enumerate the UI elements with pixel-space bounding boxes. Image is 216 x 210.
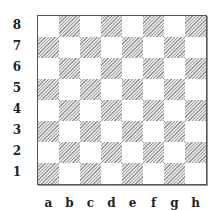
- square-f8: [143, 16, 164, 37]
- chessboard: [37, 15, 207, 185]
- rank-label: 2: [10, 141, 24, 162]
- square-f3: [143, 121, 164, 142]
- square-f1: [143, 163, 164, 184]
- square-a5: [38, 79, 59, 100]
- square-a4: [38, 100, 59, 121]
- square-h2: [185, 142, 206, 163]
- square-e8: [122, 16, 143, 37]
- file-label: e: [122, 196, 143, 210]
- square-d8: [101, 16, 122, 37]
- square-c4: [80, 100, 101, 121]
- square-g1: [164, 163, 185, 184]
- square-b6: [59, 58, 80, 79]
- rank-label: 8: [10, 15, 24, 36]
- square-h4: [185, 100, 206, 121]
- square-b5: [59, 79, 80, 100]
- square-c5: [80, 79, 101, 100]
- square-e3: [122, 121, 143, 142]
- square-e1: [122, 163, 143, 184]
- square-b7: [59, 37, 80, 58]
- square-e5: [122, 79, 143, 100]
- square-h1: [185, 163, 206, 184]
- square-g3: [164, 121, 185, 142]
- square-f5: [143, 79, 164, 100]
- square-g4: [164, 100, 185, 121]
- square-a7: [38, 37, 59, 58]
- file-label: b: [59, 196, 80, 210]
- rank-label: 7: [10, 36, 24, 57]
- square-d1: [101, 163, 122, 184]
- square-f4: [143, 100, 164, 121]
- square-g8: [164, 16, 185, 37]
- rank-label: 6: [10, 57, 24, 78]
- square-d4: [101, 100, 122, 121]
- square-a1: [38, 163, 59, 184]
- square-g7: [164, 37, 185, 58]
- square-h7: [185, 37, 206, 58]
- square-c1: [80, 163, 101, 184]
- rank-label: 1: [10, 162, 24, 183]
- square-d5: [101, 79, 122, 100]
- square-h8: [185, 16, 206, 37]
- square-d7: [101, 37, 122, 58]
- square-h6: [185, 58, 206, 79]
- file-label: d: [101, 196, 122, 210]
- square-c3: [80, 121, 101, 142]
- square-f2: [143, 142, 164, 163]
- square-b4: [59, 100, 80, 121]
- square-c7: [80, 37, 101, 58]
- rank-label: 5: [10, 78, 24, 99]
- square-c2: [80, 142, 101, 163]
- square-h3: [185, 121, 206, 142]
- square-b8: [59, 16, 80, 37]
- file-label: a: [38, 196, 59, 210]
- rank-label: 4: [10, 99, 24, 120]
- square-a3: [38, 121, 59, 142]
- square-b2: [59, 142, 80, 163]
- square-e2: [122, 142, 143, 163]
- file-label: g: [164, 196, 185, 210]
- square-a6: [38, 58, 59, 79]
- file-label: h: [185, 196, 206, 210]
- square-b3: [59, 121, 80, 142]
- square-d6: [101, 58, 122, 79]
- square-e7: [122, 37, 143, 58]
- square-c8: [80, 16, 101, 37]
- square-a2: [38, 142, 59, 163]
- square-f7: [143, 37, 164, 58]
- square-d3: [101, 121, 122, 142]
- square-b1: [59, 163, 80, 184]
- rank-label: 3: [10, 120, 24, 141]
- square-e4: [122, 100, 143, 121]
- square-h5: [185, 79, 206, 100]
- square-f6: [143, 58, 164, 79]
- square-g5: [164, 79, 185, 100]
- square-e6: [122, 58, 143, 79]
- square-g6: [164, 58, 185, 79]
- square-c6: [80, 58, 101, 79]
- square-g2: [164, 142, 185, 163]
- square-d2: [101, 142, 122, 163]
- square-a8: [38, 16, 59, 37]
- file-label: c: [80, 196, 101, 210]
- file-label: f: [143, 196, 164, 210]
